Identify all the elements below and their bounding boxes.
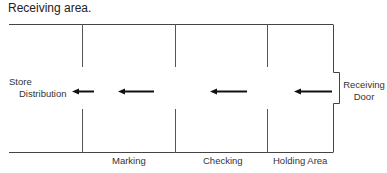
distribution-label: Distribution	[9, 88, 67, 100]
arrow-icon	[118, 89, 154, 95]
store-label: Store	[9, 76, 67, 88]
receiving-door-label: Receiving Door	[342, 79, 386, 103]
arrow-icon	[294, 89, 332, 95]
arrow-icon	[210, 89, 247, 95]
door-label: Door	[342, 91, 386, 103]
zone-label-marking: Marking	[112, 155, 146, 167]
receiving-label: Receiving	[342, 79, 386, 91]
receiving-door-wall	[334, 25, 340, 153]
zone-label-holding-area: Holding Area	[273, 155, 327, 167]
store-distribution-label: Store Distribution	[9, 76, 67, 100]
zone-label-checking: Checking	[203, 155, 243, 167]
arrow-icon	[72, 89, 94, 95]
